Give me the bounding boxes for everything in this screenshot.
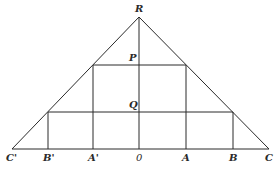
side-right-line [139, 17, 269, 149]
label-b-prime: B' [42, 152, 55, 163]
label-a-prime: A' [87, 152, 99, 163]
triangle-diagram: R P Q C' B' A' 0 A B C [0, 0, 276, 176]
label-c-prime: C' [6, 152, 17, 163]
label-a: A [181, 152, 190, 163]
label-origin: 0 [136, 152, 143, 163]
side-left-line [12, 17, 139, 149]
label-q: Q [129, 99, 138, 110]
label-b: B [228, 152, 237, 163]
label-r: R [134, 3, 143, 14]
label-p: P [128, 52, 137, 63]
label-c: C [265, 152, 273, 163]
